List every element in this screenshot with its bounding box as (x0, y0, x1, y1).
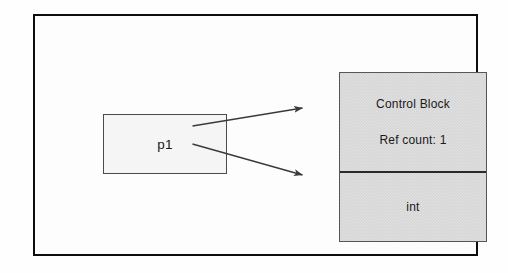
control-block-box: Control Block Ref count: 1 int (339, 72, 487, 242)
managed-object-type-label: int (406, 200, 419, 214)
control-block-lower-section: int (340, 173, 486, 241)
control-block-upper-section: Control Block Ref count: 1 (340, 73, 486, 173)
diagram-canvas: p1 Control Block Ref count: 1 int (0, 0, 508, 273)
pointer-variable-label: p1 (157, 137, 172, 152)
control-block-heading: Control Block (376, 97, 450, 111)
diagram-outer-frame: p1 Control Block Ref count: 1 int (33, 14, 478, 256)
ref-count-label: Ref count: 1 (379, 133, 446, 147)
pointer-variable-box: p1 (103, 114, 227, 174)
